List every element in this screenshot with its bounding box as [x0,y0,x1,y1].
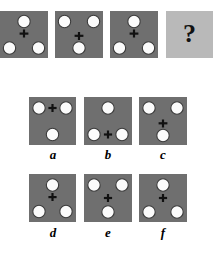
option-d-tile[interactable] [29,174,76,222]
dot-bottom-center [73,42,85,54]
dot-top-right [60,102,72,114]
option-d-label: d [29,226,77,239]
plus-icon [104,194,112,202]
dot-bottom-right [60,205,72,217]
plus-icon [159,194,167,202]
plus-icon [104,131,112,139]
dot-top-left [143,102,155,114]
dot-top-right [171,102,183,114]
venus-down-icon [48,193,56,201]
dot-bottom-right [116,128,128,140]
dot-top-center [46,179,58,191]
dot-bottom-right [142,42,154,54]
option-f-label: f [139,226,187,239]
dot-top-center [128,15,140,27]
dot-bottom-left [33,205,45,217]
sequence-tile-1 [0,11,48,58]
question-mark-icon: ? [166,11,213,58]
dot-top-right [116,179,128,191]
sequence-tile-2 [55,11,103,58]
plus-icon [48,104,56,112]
option-a-label: a [29,148,77,161]
dot-bottom-center [102,206,114,218]
dot-top-left [33,102,45,114]
dot-bottom-center [157,129,169,141]
venus-up-icon [159,120,168,128]
puzzle-canvas: ? a b [0,0,215,260]
dot-top-right [87,15,99,27]
venus-down-icon [20,30,29,38]
dot-top-left [88,179,100,191]
option-b-tile[interactable] [84,97,132,145]
dot-top-center [157,179,169,191]
option-f-tile[interactable] [139,174,187,222]
dot-top-center [18,15,30,27]
sequence-tile-question: ? [166,11,213,58]
dot-bottom-left [88,128,100,140]
option-c-tile[interactable] [139,97,187,145]
venus-down-icon [130,30,139,38]
dot-bottom-center [46,128,58,140]
dot-bottom-left [3,42,15,54]
option-c-label: c [139,148,187,161]
sequence-tile-3 [110,11,158,58]
option-e-label: e [84,226,132,239]
dot-bottom-right [32,42,44,54]
venus-up-icon [75,32,84,40]
option-e-tile[interactable] [84,174,132,222]
dot-bottom-left [113,42,125,54]
dot-bottom-right [171,206,183,218]
option-a-tile[interactable] [29,97,76,145]
dot-bottom-left [143,206,155,218]
dot-top-left [58,15,70,27]
option-b-label: b [84,148,132,161]
dot-top-center [102,102,114,114]
